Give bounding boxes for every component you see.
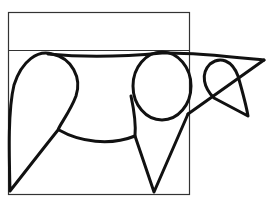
front-body-circle <box>133 52 191 120</box>
outer-rectangle <box>9 13 190 195</box>
front-leg-triangle <box>131 96 188 192</box>
belly-curve <box>59 130 135 142</box>
rear-leg-teardrop <box>9 53 77 191</box>
animal-line-drawing <box>0 0 275 202</box>
